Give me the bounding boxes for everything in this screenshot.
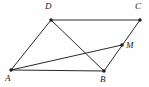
vertex-label-C: C <box>135 2 141 11</box>
vertex-dot-A <box>9 68 12 71</box>
geometry-figure: A B C D M <box>0 0 149 87</box>
vertex-label-B: B <box>100 75 106 84</box>
vertex-label-D: D <box>45 2 52 11</box>
vertex-dot-C <box>138 18 141 21</box>
segment-side-AB <box>11 70 104 71</box>
vertex-label-M: M <box>126 41 134 50</box>
vertex-dot-D <box>49 18 52 21</box>
vertex-label-A: A <box>5 74 11 83</box>
segment-diagonal-DB <box>51 20 104 71</box>
vertex-dot-B <box>102 69 105 72</box>
vertex-dot-M <box>120 43 123 46</box>
